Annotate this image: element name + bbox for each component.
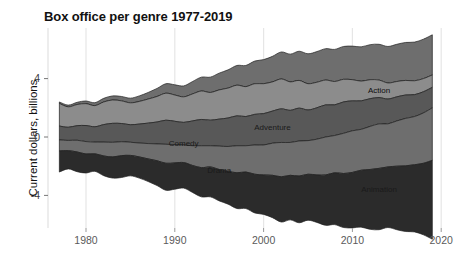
chart-figure: Box office per genre 1977-2019 Current d… [0, 0, 454, 267]
svg-text:0: 0 [34, 131, 40, 143]
streamgraph-plot: 40-4 ActionAdventureComedyDramaAnimation… [0, 0, 454, 267]
stream-bands [59, 35, 432, 239]
series-label-animation: Animation [361, 185, 397, 194]
x-axis-ticks: 19801990200020102020 [74, 228, 453, 246]
svg-text:2010: 2010 [341, 234, 365, 246]
series-label-comedy: Comedy [169, 139, 199, 148]
svg-text:4: 4 [34, 72, 40, 84]
svg-text:-4: -4 [31, 189, 40, 201]
svg-text:1990: 1990 [163, 234, 187, 246]
svg-text:2000: 2000 [252, 234, 276, 246]
series-label-action: Action [368, 86, 390, 95]
y-axis-ticks: 40-4 [31, 72, 48, 201]
series-label-adventure: Adventure [254, 123, 291, 132]
svg-text:2020: 2020 [430, 234, 454, 246]
svg-text:1980: 1980 [74, 234, 98, 246]
series-label-drama: Drama [207, 166, 232, 175]
